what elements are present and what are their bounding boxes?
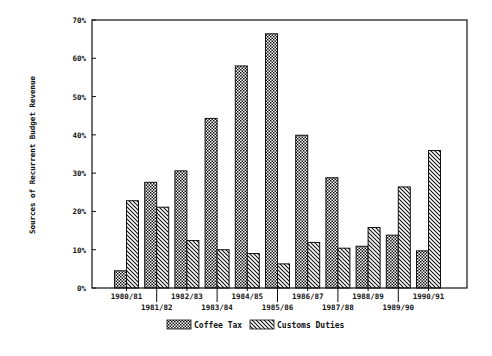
bars: [115, 34, 441, 288]
y-tick-label: 20%: [72, 207, 86, 216]
bar-customs-duties: [429, 151, 441, 288]
legend-swatch-coffee-tax: [167, 320, 191, 329]
bar-customs-duties: [308, 242, 320, 288]
y-tick-label: 30%: [72, 169, 86, 178]
x-tick-label: 1981/82: [141, 303, 173, 312]
y-tick-label: 40%: [72, 131, 86, 140]
x-tick-label: 1980/81: [111, 292, 143, 301]
bar-coffee-tax: [356, 246, 368, 288]
y-axis-label: Sources of Recurrent Budget Revenue: [28, 76, 37, 235]
bar-coffee-tax: [115, 271, 127, 288]
x-tick-label: 1986/87: [292, 292, 324, 301]
bar-coffee-tax: [235, 66, 247, 288]
bar-chart: Sources of Recurrent Budget Revenue 0%10…: [0, 0, 492, 356]
y-tick-label: 0%: [77, 284, 87, 293]
y-tick-label: 60%: [72, 54, 86, 63]
x-tick-label: 1987/88: [322, 303, 354, 312]
x-axis: 1980/811981/821982/831983/841984/851985/…: [111, 288, 445, 312]
bar-customs-duties: [398, 187, 410, 288]
bar-coffee-tax: [175, 171, 187, 288]
bar-customs-duties: [278, 264, 290, 288]
bar-customs-duties: [157, 207, 169, 288]
x-tick-label: 1989/90: [382, 303, 414, 312]
bar-coffee-tax: [417, 251, 429, 288]
bar-customs-duties: [338, 248, 350, 288]
x-tick-label: 1985/86: [262, 303, 294, 312]
x-tick-label: 1983/84: [201, 303, 233, 312]
x-tick-label: 1984/85: [231, 292, 263, 301]
x-tick-label: 1988/89: [352, 292, 384, 301]
bar-coffee-tax: [205, 118, 217, 288]
legend-label-customs-duties: Customs Duties: [277, 320, 345, 330]
bar-coffee-tax: [145, 182, 157, 288]
bar-customs-duties: [187, 241, 199, 288]
y-tick-label: 10%: [72, 246, 86, 255]
bar-customs-duties: [368, 228, 380, 288]
bar-coffee-tax: [326, 178, 338, 288]
y-tick-label: 70%: [72, 16, 86, 25]
bar-coffee-tax: [266, 34, 278, 288]
x-tick-label: 1982/83: [171, 292, 203, 301]
bar-coffee-tax: [386, 235, 398, 288]
bar-customs-duties: [247, 254, 259, 288]
bar-coffee-tax: [296, 135, 308, 288]
x-tick-label: 1990/91: [413, 292, 445, 301]
bar-customs-duties: [217, 250, 229, 288]
y-tick-label: 50%: [72, 93, 86, 102]
legend-swatch-customs-duties: [250, 320, 274, 329]
legend-label-coffee-tax: Coffee Tax: [194, 321, 242, 330]
legend: Coffee Tax Customs Duties: [167, 320, 345, 330]
bar-customs-duties: [127, 201, 139, 288]
